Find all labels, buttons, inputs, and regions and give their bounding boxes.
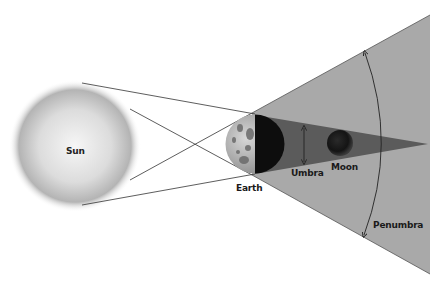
umbra-label: Umbra <box>291 168 324 178</box>
earth <box>226 115 285 174</box>
earth-label: Earth <box>236 183 262 193</box>
eclipse-diagram <box>0 0 442 284</box>
moon-label: Moon <box>331 162 358 172</box>
penumbra-label: Penumbra <box>373 220 423 230</box>
sun-label: Sun <box>66 146 85 156</box>
moon <box>327 130 353 156</box>
